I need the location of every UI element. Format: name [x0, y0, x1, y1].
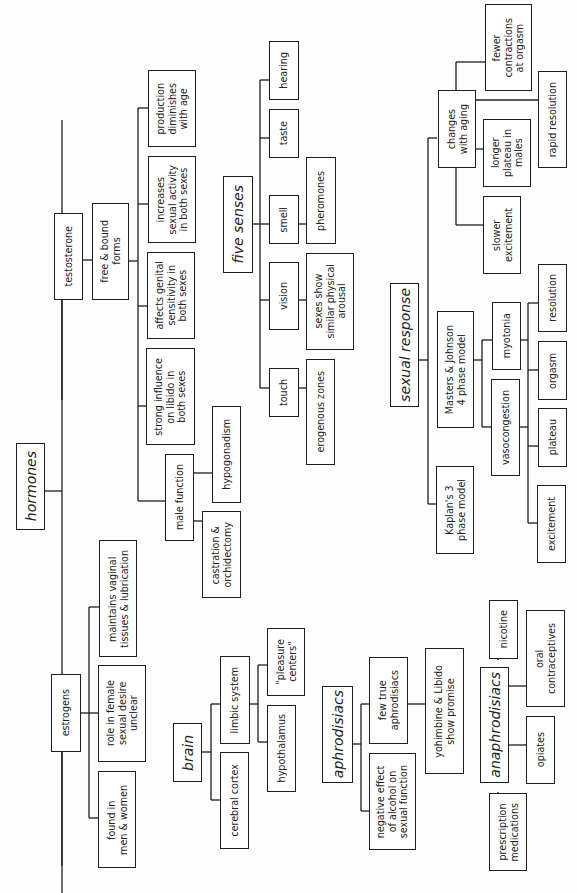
- node-resolution: resolution: [538, 264, 567, 332]
- node-oral-contraceptives: oral contraceptives: [526, 610, 565, 707]
- node-fewer-contractions: fewer contractions at orgasm: [485, 4, 532, 91]
- node-label: nicotine: [498, 610, 510, 648]
- node-estrogens: estrogens: [51, 674, 81, 752]
- node-strong-influence: strong influence on libido in both sexes: [146, 348, 195, 445]
- node-label: slower excitement: [491, 208, 514, 262]
- node-touch: touch: [269, 368, 299, 417]
- node-label: erogenous zones: [315, 371, 327, 452]
- node-label: testosterone: [63, 226, 75, 287]
- node-label: hypothalamus: [276, 714, 288, 782]
- node-label: free & bound forms: [99, 220, 122, 283]
- node-label: taste: [278, 121, 290, 145]
- node-label: increases sexual activity in both sexes: [155, 165, 190, 234]
- node-label: negative effect of alcohol on sexual fun…: [375, 765, 410, 838]
- node-smell: smell: [269, 195, 299, 244]
- node-label: changes with aging: [446, 104, 469, 154]
- node-label: orgasm: [547, 353, 559, 389]
- node-sexes-show: sexes show similar physical arousal: [306, 253, 354, 350]
- node-hypogonadism: hypogonadism: [212, 406, 241, 503]
- node-role-female: role in female sexual desire unclear: [98, 665, 146, 762]
- node-hypothalamus: hypothalamus: [267, 705, 296, 792]
- node-label: Kaplan's 3 phase model: [444, 479, 467, 541]
- node-label: strong influence on libido in both sexes: [153, 358, 188, 436]
- node-limbic-system: limbic system: [220, 656, 250, 744]
- node-pleasure-centers: "pleasure centers": [267, 628, 305, 696]
- node-label: hormones: [23, 451, 39, 521]
- node-cerebral-cortex: cerebral cortex: [220, 752, 249, 849]
- node-brain: brain: [173, 723, 202, 782]
- node-anaphrodisiacs: anaphrodisiacs: [480, 667, 509, 783]
- node-label: few true aphrodisiacs: [377, 670, 400, 730]
- node-label: estrogens: [60, 689, 72, 736]
- node-label: plateau: [547, 419, 559, 455]
- node-label: touch: [278, 379, 290, 406]
- node-found-in: found in men & women: [98, 771, 136, 868]
- node-castration: castration & orchidectomy: [202, 511, 241, 598]
- node-kaplan: Kaplan's 3 phase model: [436, 466, 474, 554]
- node-label: oral contraceptives: [534, 623, 557, 694]
- node-label: limbic system: [229, 667, 241, 733]
- node-excitement: excitement: [537, 485, 566, 563]
- node-label: smell: [278, 207, 290, 233]
- node-changes-aging: changes with aging: [438, 90, 476, 168]
- node-label: yohimbine & Libido show promise: [433, 665, 456, 758]
- node-orgasm: orgasm: [538, 341, 567, 400]
- node-label: excitement: [546, 497, 558, 551]
- node-label: rapid resolution: [547, 82, 559, 157]
- node-five-senses: five senses: [223, 176, 253, 273]
- node-testosterone: testosterone: [54, 213, 83, 300]
- node-label: "pleasure centers": [275, 639, 298, 685]
- node-label: brain: [180, 735, 196, 771]
- node-label: opiates: [535, 732, 547, 767]
- node-vision: vision: [269, 262, 299, 330]
- node-pheromones: pheromones: [306, 157, 336, 244]
- node-yohimbine: yohimbine & Libido show promise: [425, 648, 464, 774]
- node-label: castration & orchidectomy: [210, 522, 233, 588]
- node-label: sexes show similar physical arousal: [313, 264, 348, 339]
- node-negative-alcohol: negative effect of alcohol on sexual fun…: [369, 753, 416, 850]
- node-myotonia: myotonia: [492, 302, 521, 370]
- node-label: aphrodisiacs: [330, 690, 346, 778]
- node-opiates: opiates: [526, 716, 555, 784]
- node-maintains-vaginal: maintains vaginal tissues & lubrication: [99, 540, 137, 657]
- node-nicotine: nicotine: [489, 600, 518, 659]
- node-slower-excitement: slower excitement: [483, 196, 521, 274]
- node-rapid-resolution: rapid resolution: [538, 71, 567, 168]
- node-label: hypogonadism: [221, 419, 233, 490]
- node-sexual-response: sexual response: [390, 283, 419, 407]
- node-male-function: male function: [165, 454, 194, 541]
- node-aphrodisiacs: aphrodisiacs: [322, 686, 353, 783]
- node-taste: taste: [269, 109, 299, 158]
- node-label: production diminishes with age: [155, 83, 190, 135]
- node-prescription: prescription medications: [489, 793, 527, 871]
- node-label: resolution: [547, 274, 559, 322]
- node-masters-johnson: Masters & Johnson 4 phase model: [437, 311, 474, 428]
- node-hearing: hearing: [269, 41, 299, 100]
- node-few-true: few true aphrodisiacs: [369, 657, 408, 744]
- node-label: hearing: [278, 52, 290, 89]
- node-label: vasocongestion: [500, 390, 512, 465]
- node-label: Masters & Johnson 4 phase model: [444, 325, 467, 414]
- node-hormones: hormones: [16, 443, 45, 530]
- node-vasocongestion: vasocongestion: [491, 379, 520, 476]
- node-production-diminishes: production diminishes with age: [148, 70, 196, 147]
- node-label: prescription medications: [497, 803, 520, 862]
- node-label: anaphrodisiacs: [487, 672, 503, 778]
- node-increases-activity: increases sexual activity in both sexes: [148, 156, 196, 243]
- node-label: myotonia: [501, 313, 513, 358]
- node-free-bound-forms: free & bound forms: [92, 203, 129, 300]
- node-longer-plateau: longer plateau in males: [483, 119, 531, 187]
- concept-map: hormones testosterone free & bound forms…: [0, 0, 577, 893]
- node-label: male function: [174, 464, 186, 530]
- node-label: vision: [278, 282, 290, 310]
- node-label: fewer contractions at orgasm: [491, 18, 526, 77]
- node-label: cerebral cortex: [229, 764, 241, 837]
- node-plateau: plateau: [538, 408, 567, 467]
- node-label: maintains vaginal tissues & lubrication: [107, 550, 130, 648]
- node-label: longer plateau in males: [490, 129, 525, 177]
- node-label: affects genital sensitivity in both sexe…: [154, 261, 189, 330]
- node-label: found in men & women: [106, 785, 129, 855]
- node-label: role in female sexual desire unclear: [105, 680, 140, 746]
- node-label: five senses: [230, 185, 246, 263]
- node-erogenous-zones: erogenous zones: [306, 359, 335, 465]
